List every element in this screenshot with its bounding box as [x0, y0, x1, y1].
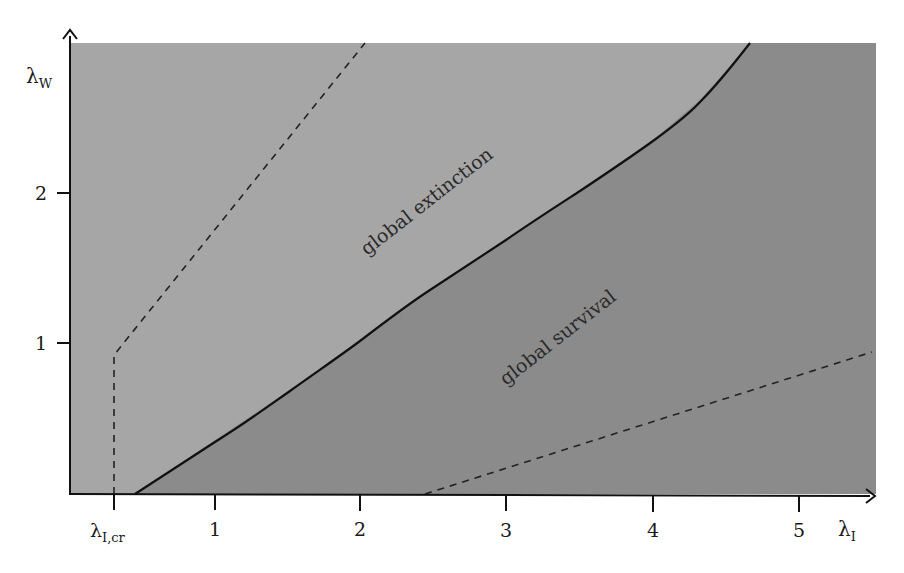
phase-diagram: λI,cr 1 2 3 4 5 λI 2 1 λW global extinct…: [0, 0, 904, 573]
x-tick-label-4: 4: [647, 519, 659, 541]
x-tick-label-2: 2: [354, 518, 366, 540]
x-axis-label: λI: [838, 517, 856, 544]
y-tick-label-2: 2: [35, 182, 47, 204]
x-ticks: [114, 494, 799, 512]
y-tick-label-1: 1: [35, 332, 47, 354]
x-tick-label-5: 5: [793, 519, 805, 541]
x-tick-label-3: 3: [500, 519, 512, 541]
y-axis-label: λW: [26, 64, 53, 91]
x-tick-label-1: 1: [209, 518, 221, 540]
x-axis: [69, 494, 870, 496]
y-ticks: [57, 193, 70, 343]
x-tick-label-cr: λI,cr: [90, 519, 126, 545]
